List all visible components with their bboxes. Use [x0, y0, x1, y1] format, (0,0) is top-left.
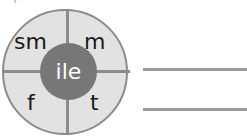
upper-rule-line — [143, 68, 247, 71]
quadrant-label-bottom-left: f — [27, 92, 35, 114]
center-circle: ile — [40, 43, 97, 100]
cropped-text-artifact: p — [13, 0, 53, 6]
diagram-canvas: p sm m f t ile — [0, 0, 247, 139]
center-circle-label: ile — [40, 43, 97, 100]
lower-rule-line — [143, 108, 247, 111]
cropped-glyph: p — [13, 0, 23, 3]
